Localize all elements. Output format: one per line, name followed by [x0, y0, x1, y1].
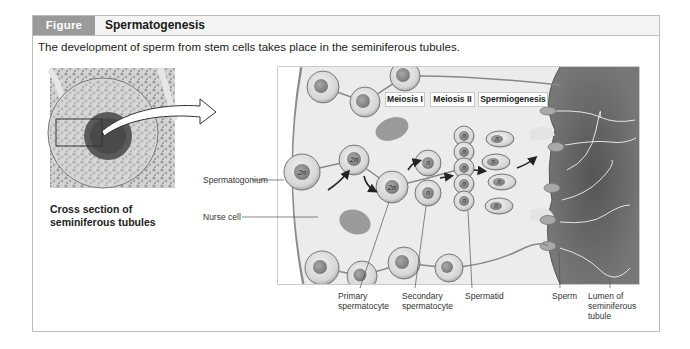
ploidy-label: n [495, 135, 499, 142]
label-spermatogonium: Spermatogonium [203, 175, 268, 185]
micrograph-caption: Cross section of seminiferous tubules [50, 203, 156, 229]
stage-label-meiosis-2: Meiosis II [430, 92, 475, 107]
label-line: Lumen of [588, 291, 636, 301]
ploidy-label: n [462, 132, 466, 139]
label-lumen: Lumen of seminiferous tubule [588, 291, 636, 321]
ploidy-label: n [426, 189, 430, 196]
ploidy-label: n [462, 148, 466, 155]
ploidy-label: 2n [349, 156, 358, 163]
label-line: spermatocyte [338, 301, 389, 311]
ploidy-label: n [426, 159, 430, 166]
ploidy-label: 2n [297, 169, 306, 176]
ploidy-label: n [497, 178, 501, 185]
ploidy-label: n [494, 202, 498, 209]
label-secondary-spermatocyte: Secondary spermatocyte [402, 291, 453, 311]
label-sperm: Sperm [552, 291, 577, 301]
label-line: spermatocyte [402, 301, 453, 311]
label-nurse-cell: Nurse cell [203, 212, 241, 222]
ploidy-label: n [462, 180, 466, 187]
label-line: seminiferous [588, 301, 636, 311]
stage-label-spermiogenesis: Spermiogenesis [478, 92, 548, 107]
stage-label-meiosis-1: Meiosis I [385, 92, 425, 107]
label-line: Primary [338, 291, 389, 301]
label-line: tubule [588, 311, 636, 321]
label-line: Secondary [402, 291, 453, 301]
ploidy-label: 2n [387, 184, 396, 191]
label-spermatid: Spermatid [465, 291, 504, 301]
ploidy-label: n [462, 164, 466, 171]
micrograph-caption-line: seminiferous tubules [50, 216, 156, 229]
micrograph-caption-line: Cross section of [50, 203, 156, 216]
ploidy-label: n [462, 197, 466, 204]
label-primary-spermatocyte: Primary spermatocyte [338, 291, 389, 311]
ploidy-label: n [491, 158, 495, 165]
